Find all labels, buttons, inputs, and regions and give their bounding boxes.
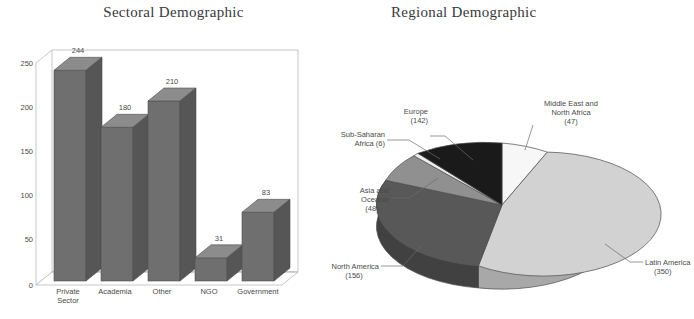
label-line-2: North Africa [551,108,591,117]
bar-side-face [274,199,290,281]
pie-label-latin-america: Latin America (350) [645,258,691,276]
y-tick-200: 200 [20,103,33,112]
bar-front-face [242,212,274,281]
pie-label-sub-saharan-africa: Sub-Saharan Africa (6) [341,130,386,148]
bar-category-label-line1: Private [56,287,79,296]
label-line-1: Middle East and [544,99,598,108]
sectoral-bar-chart: 250 200 150 100 50 0 244 Private Sector … [0,0,347,319]
label-line-3: (47) [564,117,578,126]
bar-front-face [148,101,180,281]
bar-value-label: 83 [262,188,270,197]
bar-category-label-line1: NGO [200,287,217,296]
label-line-1: Sub-Saharan [341,130,385,139]
y-tick-250: 250 [20,59,33,68]
y-axis-ticks: 250 200 150 100 50 0 [20,59,33,290]
label-line-2: (142) [410,116,428,125]
bar-other[interactable]: 210 Other [148,77,196,296]
label-line-3: (48) [365,204,379,213]
bar-front-face [101,127,133,281]
y-tick-150: 150 [20,147,33,156]
bar-value-label: 210 [166,77,179,86]
bar-category-label-line1: Other [153,287,172,296]
regional-pie-chart: Middle East and North Africa (47) Latin … [347,0,694,319]
leader-middle-east [525,125,533,150]
label-line-1: Latin America [645,258,691,267]
bar-front-face [195,258,227,281]
bar-private-sector[interactable]: 244 Private Sector [54,46,102,305]
bar-value-label: 244 [72,46,85,55]
y-tick-0: 0 [29,281,33,290]
y-tick-50: 50 [25,235,33,244]
label-line-1: North America [331,262,379,271]
bar-value-label: 180 [119,103,132,112]
bar-category-label-line2: Sector [57,296,79,305]
bar-side-face [86,57,102,281]
sectoral-demographic-figure: Sectoral Demographic 250 200 150 100 50 … [0,0,347,319]
bar-category-label-line1: Government [237,287,279,296]
label-line-1: Asia and [360,186,389,195]
label-line-2: Africa (6) [355,139,386,148]
y-tick-100: 100 [20,191,33,200]
pie-label-europe: Europe (142) [404,107,429,125]
bar-side-face [180,88,196,281]
label-line-2: (156) [345,271,363,280]
bar-ngo[interactable]: 31 NGO [195,234,243,296]
bar-side-face [133,114,149,281]
bar-category-label-line1: Academia [98,287,132,296]
regional-demographic-figure: Regional Demographic [347,0,694,319]
bar-value-label: 31 [215,234,223,243]
pie-label-middle-east-north-africa: Middle East and North Africa (47) [544,99,598,126]
bar-front-face [54,70,86,281]
bar-academia[interactable]: 180 Academia [98,103,149,296]
label-line-2: (350) [654,267,672,276]
label-line-2: Oceania [361,195,390,204]
label-line-1: Europe [404,107,428,116]
depth-edge-top [36,50,52,63]
